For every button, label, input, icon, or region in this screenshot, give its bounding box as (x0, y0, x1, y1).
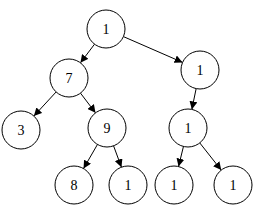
tree-diagram: 1 7 1 3 9 1 8 1 1 1 (0, 0, 261, 207)
node-label: 7 (66, 71, 73, 86)
edge-arrow (80, 93, 95, 113)
edge-arrow (179, 146, 184, 166)
tree-node: 1 (169, 109, 207, 147)
edge-arrow (200, 143, 221, 170)
edge-arrow (34, 92, 56, 116)
tree-node: 8 (55, 166, 93, 204)
tree-node: 1 (155, 166, 193, 204)
edge-arrow (80, 44, 94, 63)
node-label: 1 (103, 22, 110, 37)
tree-node: 7 (50, 59, 88, 97)
edge-arrow (123, 37, 182, 63)
tree-node: 9 (88, 109, 126, 147)
node-label: 1 (171, 178, 178, 193)
tree-node: 1 (109, 166, 147, 204)
tree-node: 1 (181, 51, 219, 89)
edge-arrow (114, 146, 122, 167)
node-label: 1 (197, 63, 204, 78)
node-label: 1 (230, 178, 237, 193)
edge-arrow (84, 144, 98, 168)
node-label: 1 (125, 178, 132, 193)
tree-node: 1 (214, 166, 252, 204)
node-label: 3 (18, 123, 25, 138)
tree-node: 1 (87, 10, 125, 48)
nodes: 1 7 1 3 9 1 8 1 1 1 (2, 10, 252, 204)
edge-arrow (192, 89, 196, 110)
node-label: 1 (185, 121, 192, 136)
node-label: 8 (71, 178, 78, 193)
node-label: 9 (104, 121, 111, 136)
tree-node: 3 (2, 111, 40, 149)
